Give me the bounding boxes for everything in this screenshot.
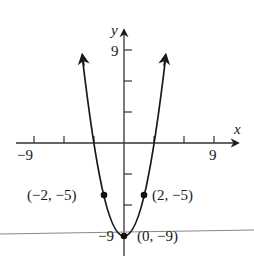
x-min-label: −9	[17, 147, 33, 163]
x-axis-label: x	[233, 121, 241, 137]
y-max-label: 9	[111, 43, 119, 59]
y-axis-label: y	[109, 22, 118, 38]
point-left	[101, 192, 108, 199]
x-max-label: 9	[209, 147, 217, 163]
reference-line	[0, 230, 254, 234]
point-vertex-label: (0, −9)	[137, 228, 178, 245]
y-ticks	[124, 50, 132, 205]
point-left-label: (−2, −5)	[27, 187, 76, 204]
point-right	[141, 192, 148, 199]
point-right-label: (2, −5)	[152, 187, 193, 204]
graph: x y 9 −9 9 (−2, −5) (2, −5) −9 (0, −9)	[0, 0, 254, 257]
y-min-label: −9	[98, 228, 114, 244]
point-vertex	[121, 233, 128, 240]
